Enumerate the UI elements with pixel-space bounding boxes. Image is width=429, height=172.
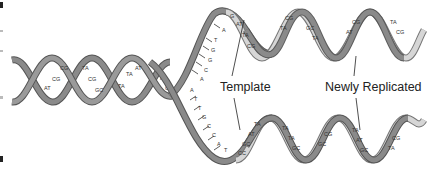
lower-template-strand: A T T G C C A T [150, 62, 272, 162]
svg-text:TA: TA [390, 19, 397, 25]
svg-text:CG: CG [324, 131, 332, 137]
svg-text:TA: TA [242, 32, 249, 38]
upper-daughter-helix: G AT TA CG TA CG GC TA AT CG TA CG [226, 12, 424, 58]
svg-text:CC: CC [238, 150, 246, 156]
svg-text:T: T [224, 147, 228, 153]
svg-text:GC: GC [242, 141, 250, 147]
svg-text:G: G [230, 13, 234, 19]
svg-text:CG: CG [396, 29, 404, 35]
svg-text:CG: CG [352, 19, 360, 25]
edge-mark [0, 96, 3, 99]
svg-text:C: C [204, 67, 208, 73]
svg-text:TA: TA [126, 71, 133, 77]
svg-text:TA: TA [312, 35, 319, 41]
svg-text:AT: AT [356, 137, 363, 143]
svg-text:A: A [200, 76, 204, 82]
svg-text:GC: GC [360, 147, 368, 153]
svg-text:TA: TA [388, 145, 395, 151]
svg-text:CG: CG [392, 135, 400, 141]
svg-text:GC: GC [318, 141, 326, 147]
svg-text:AT: AT [44, 85, 51, 91]
svg-text:T: T [214, 37, 218, 43]
svg-text:TA: TA [254, 121, 261, 127]
edge-mark [0, 30, 3, 32]
svg-text:AT: AT [346, 29, 353, 35]
svg-text:C: C [207, 123, 211, 129]
newly-replicated-label: Newly Replicated [325, 80, 422, 94]
svg-text:G: G [202, 114, 206, 120]
svg-text:TA: TA [352, 127, 359, 133]
svg-text:T: T [198, 105, 202, 111]
edge-mark [0, 2, 3, 8]
svg-text:T: T [194, 96, 198, 102]
svg-text:A: A [217, 141, 221, 147]
svg-text:GC: GC [306, 25, 314, 31]
edge-mark [0, 50, 3, 52]
svg-text:TA: TA [82, 65, 89, 71]
svg-text:AT: AT [236, 21, 243, 27]
template-label: Template [220, 80, 271, 94]
svg-text:C: C [212, 132, 216, 138]
svg-text:CG: CG [52, 76, 60, 82]
lower-daughter-helix: CC GC AT TA TA TA GC GC CG TA AT GC CG T… [236, 118, 424, 160]
svg-text:GC: GC [292, 145, 300, 151]
svg-text:G: G [208, 57, 212, 63]
svg-text:AT: AT [135, 65, 142, 71]
svg-text:A: A [190, 87, 194, 93]
edge-mark [0, 156, 3, 162]
svg-text:CG: CG [285, 15, 293, 21]
svg-text:TA: TA [118, 83, 125, 89]
svg-text:TA: TA [282, 125, 289, 131]
svg-text:TA: TA [280, 25, 287, 31]
svg-text:A: A [222, 27, 226, 33]
svg-text:TA: TA [288, 135, 295, 141]
svg-text:GC: GC [95, 87, 103, 93]
svg-text:CG: CG [88, 76, 96, 82]
svg-text:G: G [211, 47, 215, 53]
svg-text:CG: CG [60, 65, 68, 71]
svg-text:AT: AT [248, 131, 255, 137]
svg-text:CG: CG [247, 43, 255, 49]
